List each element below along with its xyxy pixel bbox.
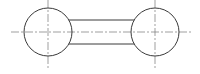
dumbbell-drawing xyxy=(0,0,200,74)
